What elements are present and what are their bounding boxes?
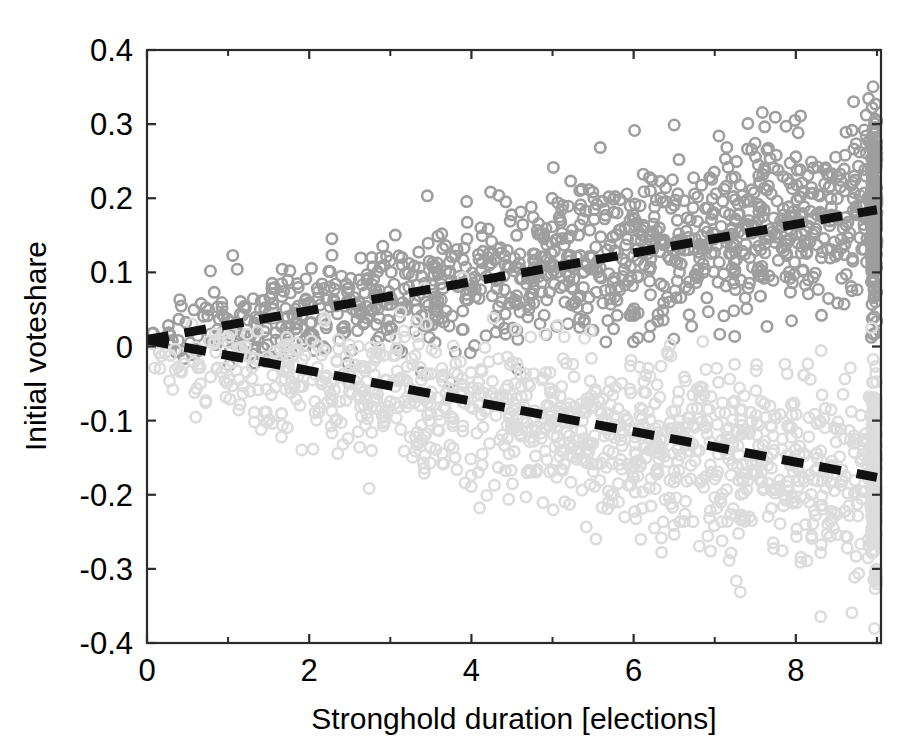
scatter-point <box>722 142 732 152</box>
scatter-point <box>733 528 743 538</box>
scatter-point <box>191 412 201 422</box>
scatter-point <box>781 121 791 131</box>
scatter-point <box>645 289 655 299</box>
scatter-point <box>603 315 613 325</box>
x-tick-label: 4 <box>463 653 480 688</box>
scatter-point <box>548 505 558 515</box>
scatter-point <box>629 125 639 135</box>
scatter-point <box>423 238 433 248</box>
scatter-point <box>713 377 723 387</box>
scatter-point <box>851 551 861 561</box>
scatter-point <box>466 454 476 464</box>
scatter-point <box>667 175 677 185</box>
y-tick-label: -0.3 <box>80 552 133 587</box>
scatter-point <box>742 304 752 314</box>
scatter-point <box>715 329 725 339</box>
scatter-point <box>565 176 575 186</box>
scatter-point <box>474 503 484 513</box>
scatter-point <box>717 535 727 545</box>
scatter-point <box>816 345 826 355</box>
scatter-point <box>730 284 740 294</box>
scatter-point <box>714 131 724 141</box>
scatter-point <box>694 541 704 551</box>
scatter-point <box>686 321 696 331</box>
scatter-point <box>480 342 490 352</box>
scatter-point <box>644 331 654 341</box>
scatter-figure: 024680.40.30.20.10-0.1-0.2-0.3-0.4 Stron… <box>0 0 921 748</box>
scatter-point <box>175 295 185 305</box>
scatter-point <box>354 442 364 452</box>
scatter-point <box>804 431 814 441</box>
scatter-point <box>390 230 400 240</box>
scatter-point <box>472 428 482 438</box>
scatter-point <box>817 390 827 400</box>
scatter-point <box>491 410 501 420</box>
scatter-point <box>847 607 857 617</box>
x-tick-label: 0 <box>138 653 155 688</box>
scatter-point <box>673 189 683 199</box>
scatter-point <box>577 485 587 495</box>
scatter-point <box>601 337 611 347</box>
scatter-point <box>813 284 823 294</box>
scatter-point <box>701 364 711 374</box>
y-tick-label: -0.1 <box>80 404 133 439</box>
scatter-point <box>716 221 726 231</box>
scatter-point <box>569 371 579 381</box>
scatter-point <box>698 336 708 346</box>
scatter-point <box>636 534 646 544</box>
scatter-point <box>656 547 666 557</box>
scatter-point <box>297 445 307 455</box>
scatter-point <box>256 424 266 434</box>
scatter-point <box>366 445 376 455</box>
scatter-point <box>696 180 706 190</box>
y-axis-title: Initial voteshare <box>19 241 52 451</box>
scatter-point <box>586 353 596 363</box>
scatter-point <box>333 448 343 458</box>
scatter-point <box>548 162 558 172</box>
scatter-point <box>842 543 852 553</box>
scatter-point <box>448 341 458 351</box>
scatter-point <box>656 533 666 543</box>
scatter-point <box>848 97 858 107</box>
scatter-point <box>478 422 488 432</box>
scatter-point <box>507 479 517 489</box>
scatter-point <box>729 359 739 369</box>
scatter-point <box>674 154 684 164</box>
scatter-point <box>786 316 796 326</box>
scatter-point <box>360 420 370 430</box>
plot-canvas: 024680.40.30.20.10-0.1-0.2-0.3-0.4 Stron… <box>0 0 921 748</box>
scatter-point <box>452 244 462 254</box>
scatter-point <box>656 361 666 371</box>
scatter-point <box>680 496 690 506</box>
scatter-point <box>503 494 513 504</box>
scatter-point <box>731 576 741 586</box>
scatter-point <box>868 82 878 92</box>
scatter-point <box>481 490 491 500</box>
scatter-point <box>591 242 601 252</box>
scatter-point <box>461 196 471 206</box>
scatter-point <box>755 291 765 301</box>
scatter-point <box>228 250 238 260</box>
scatter-point <box>209 287 219 297</box>
scatter-point <box>308 444 318 454</box>
scatter-point <box>585 225 595 235</box>
scatter-point <box>327 233 337 243</box>
scatter-point <box>458 306 468 316</box>
scatter-point <box>719 311 729 321</box>
scatter-point <box>525 332 535 342</box>
scatter-point <box>869 623 879 633</box>
y-tick-label: 0 <box>116 330 133 365</box>
scatter-point <box>364 483 374 493</box>
x-tick-label: 8 <box>787 653 804 688</box>
scatter-point <box>538 497 548 507</box>
scatter-point <box>760 122 770 132</box>
x-tick-label: 6 <box>625 653 642 688</box>
scatter-point <box>819 233 829 243</box>
scatter-point <box>356 253 366 263</box>
scatter-point <box>838 389 848 399</box>
x-tick-label: 2 <box>301 653 318 688</box>
y-tick-label: 0.1 <box>90 255 133 290</box>
scatter-point <box>526 202 536 212</box>
scatter-point <box>352 326 362 336</box>
scatter-point <box>845 363 855 373</box>
